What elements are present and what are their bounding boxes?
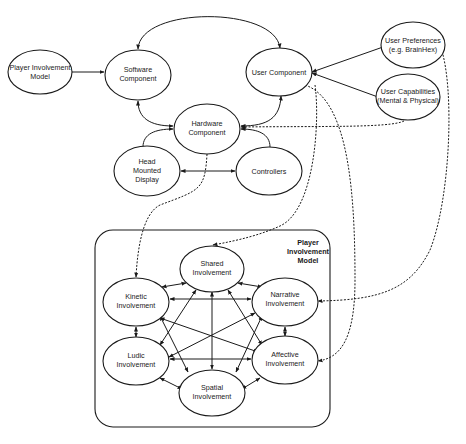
node-label: Involvement [193, 392, 232, 401]
node-label: Hardware [191, 119, 222, 128]
node-user-capabilities[interactable]: User Capabilities (Mental & Physical) [376, 74, 440, 120]
node-label: Involvement [117, 360, 156, 369]
node-label: Component [119, 74, 156, 83]
node-label: User Preferences [385, 36, 441, 45]
node-label: User Component [252, 68, 306, 77]
node-ludic-involvement[interactable]: Ludic Involvement [103, 337, 169, 385]
node-label: (e.g. BrainHex) [389, 45, 437, 54]
node-label: Affective [271, 350, 298, 359]
node-label: (Mental & Physical) [377, 96, 439, 105]
node-user-component[interactable]: User Component [246, 48, 312, 96]
node-label: Involvement [266, 359, 305, 368]
node-label: Model [30, 72, 50, 81]
node-label: Shared [200, 259, 223, 268]
node-label: Narrative [270, 290, 299, 299]
node-hardware-component[interactable]: Hardware Component [174, 104, 240, 154]
node-label: Involvement [266, 299, 305, 308]
node-label: Software [124, 65, 152, 74]
node-label: Spatial [201, 383, 223, 392]
diagram-canvas: Player Involvement Model [0, 0, 466, 444]
node-label: Player Involvement [9, 63, 70, 72]
node-player-involvement-model[interactable]: Player Involvement Model [8, 50, 72, 94]
node-spatial-involvement[interactable]: Spatial Involvement [179, 370, 245, 416]
node-label: Mounted [133, 166, 161, 175]
node-affective-involvement[interactable]: Affective Involvement [252, 336, 318, 384]
node-label: Head [138, 157, 155, 166]
node-head-mounted-display[interactable]: Head Mounted Display [114, 146, 180, 196]
node-kinetic-involvement[interactable]: Kinetic Involvement [103, 278, 169, 326]
node-label: Component [188, 128, 225, 137]
node-label: User Capabilities [381, 87, 436, 96]
container-label-line1: Player [297, 238, 319, 247]
node-narrative-involvement[interactable]: Narrative Involvement [252, 278, 318, 326]
container-label-line3: Model [298, 256, 319, 265]
node-user-preferences[interactable]: User Preferences (e.g. BrainHex) [381, 22, 445, 68]
node-label: Ludic [127, 351, 145, 360]
node-label: Involvement [193, 268, 232, 277]
node-label: Kinetic [125, 292, 147, 301]
node-controllers[interactable]: Controllers [236, 147, 302, 195]
node-label: Display [135, 175, 159, 184]
node-shared-involvement[interactable]: Shared Involvement [180, 246, 244, 292]
node-software-component[interactable]: Software Component [105, 50, 171, 100]
container-label-line2: Involvement [287, 247, 330, 256]
node-label: Involvement [117, 301, 156, 310]
node-label: Controllers [252, 167, 287, 176]
